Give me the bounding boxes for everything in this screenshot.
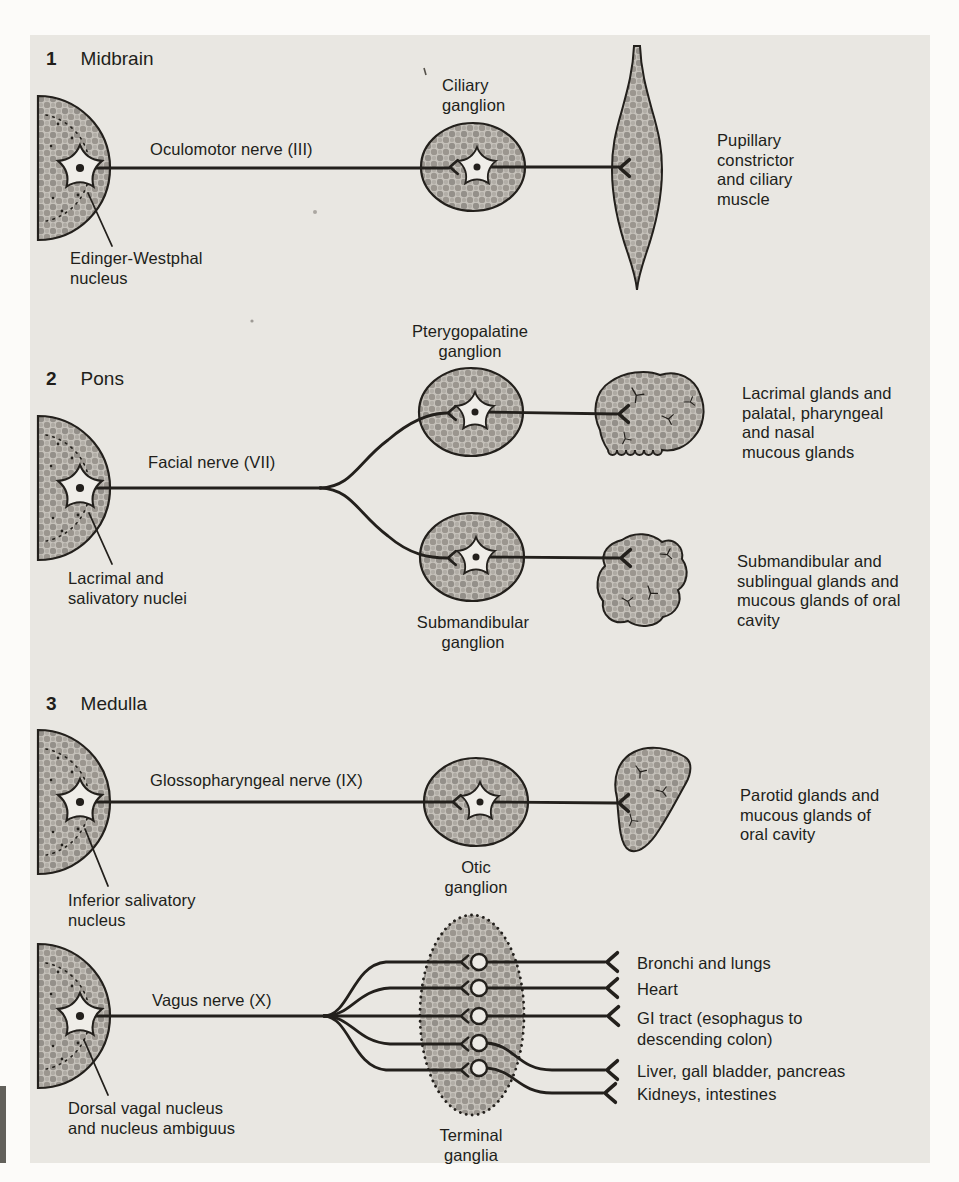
section-1-number: 1 [46,48,57,69]
section-1-heading: 1Midbrain [46,48,153,70]
target-label-liver-gallbladder-pancreas: Liver, gall bladder, pancreas [637,1061,845,1082]
ganglion-label-ciliary: Ciliary ganglion [442,76,505,115]
target-label-bronchi-lungs: Bronchi and lungs [637,953,771,974]
target-label-kidneys-intestines: Kidneys, intestines [637,1084,776,1105]
nucleus-label-edinger-westphal: Edinger-Westphal nucleus [70,249,202,288]
pterygopalatine-postganglionic-line [480,412,617,414]
ganglion-label-otic: Otic ganglion [444,858,507,897]
section-1-title: Midbrain [81,48,154,69]
nucleus-label-dorsal-vagal: Dorsal vagal nucleus and nucleus ambiguu… [68,1099,235,1138]
ganglia-label-terminal: Terminal ganglia [439,1126,502,1165]
nerve-label-facial: Facial nerve (VII) [148,453,275,473]
section-2-title: Pons [81,368,124,389]
section-3-number: 3 [46,693,57,714]
section-3-heading: 3Medulla [46,693,147,715]
target-label-heart: Heart [637,979,678,1000]
target-label-pupillary-muscle: Pupillary constrictor and ciliary muscle [717,131,794,209]
section-3-title: Medulla [81,693,148,714]
section-2-number: 2 [46,368,57,389]
nerve-label-vagus: Vagus nerve (X) [152,991,272,1011]
scanned-figure-page: 1Midbrain 2Pons 3Medulla Oculomotor nerv… [0,0,959,1182]
submandibular-gland-shape [597,534,686,626]
target-label-gi-tract: GI tract (esophagus to descending colon) [637,1008,802,1049]
target-label-lacrimal-glands: Lacrimal glands and palatal, pharyngeal … [742,384,892,462]
submandibular-postganglionic-line [481,557,619,558]
target-label-submandibular-glands: Submandibular and sublingual glands and … [737,552,901,630]
nerve-label-glossopharyngeal: Glossopharyngeal nerve (IX) [150,771,363,791]
ganglion-label-pterygopalatine: Pterygopalatine ganglion [412,322,528,361]
nucleus-label-lacrimal-salivatory: Lacrimal and salivatory nuclei [68,569,187,608]
section-2-heading: 2Pons [46,368,124,390]
nerve-label-oculomotor: Oculomotor nerve (III) [150,140,313,160]
target-label-parotid-glands: Parotid glands and mucous glands of oral… [740,786,879,845]
ganglion-label-submandibular: Submandibular ganglion [417,613,529,652]
nucleus-label-inferior-salivatory: Inferior salivatory nucleus [68,891,196,930]
otic-postganglionic-line [485,802,617,803]
